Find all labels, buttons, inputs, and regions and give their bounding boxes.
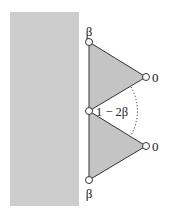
label-upper-zero: 0	[152, 70, 159, 85]
wall-region	[10, 12, 79, 206]
node-middle	[86, 108, 93, 115]
label-bottom-beta: β	[86, 186, 93, 201]
label-lower-zero: 0	[152, 139, 159, 154]
node-bottom	[86, 177, 93, 184]
angle-arc	[131, 87, 137, 135]
upper-triangle	[89, 42, 146, 111]
lower-triangle	[89, 111, 146, 180]
label-top-beta: β	[86, 24, 93, 39]
label-angle: 1 − 2β	[96, 105, 128, 119]
wall-triangle-diagram: β 0 1 − 2β 0 β	[0, 0, 173, 217]
node-right-upper	[143, 74, 150, 81]
node-top	[86, 39, 93, 46]
node-right-lower	[143, 143, 150, 150]
